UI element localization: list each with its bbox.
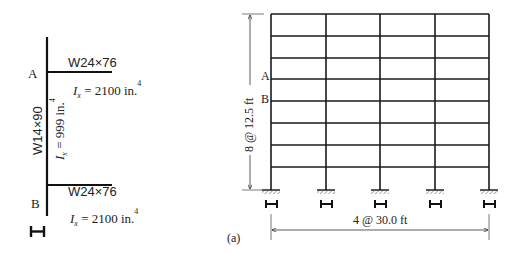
fixed-support-icon xyxy=(262,190,280,194)
beam-bottom-inertia: Ix = 2100 in.4 xyxy=(69,207,138,228)
beam-top-section-label: W24×76 xyxy=(68,55,117,70)
wide-flange-section-icon xyxy=(375,200,386,208)
fixed-support-icon xyxy=(426,190,444,194)
wide-flange-section-icon xyxy=(484,200,495,208)
subassembly-detail: A B W24×76 Ix = 2100 in.4 W24×76 Ix = 21… xyxy=(28,37,141,237)
column-inertia: Ix = 999 in.4 xyxy=(48,98,69,161)
wide-flange-section-icon xyxy=(266,200,277,208)
fixed-supports xyxy=(262,190,498,194)
joint-a-label: A xyxy=(28,66,38,81)
wide-flange-section-icon xyxy=(31,226,44,237)
fixed-support-icon xyxy=(317,190,335,194)
width-dimension-label: 4 @ 30.0 ft xyxy=(353,213,408,227)
height-dimension-label: 8 @ 12.5 ft xyxy=(242,97,256,152)
beam-top-inertia: Ix = 2100 in.4 xyxy=(72,79,141,100)
frame-columns xyxy=(271,14,489,190)
frame-joint-b-label: B xyxy=(261,92,269,106)
joint-b-label: B xyxy=(31,196,40,211)
fixed-support-icon xyxy=(480,190,498,194)
width-dimension: 4 @ 30.0 ft xyxy=(271,213,489,240)
part-label: (a) xyxy=(227,231,240,245)
beam-bottom-section-label: W24×76 xyxy=(68,184,117,199)
diagram-canvas: A B W24×76 Ix = 2100 in.4 W24×76 Ix = 21… xyxy=(0,0,517,254)
column-section-icons xyxy=(266,200,495,208)
moment-frame xyxy=(271,14,489,190)
column-section-label: W14×90 xyxy=(30,106,45,155)
fixed-support-icon xyxy=(371,190,389,194)
wide-flange-section-icon xyxy=(321,200,332,208)
wide-flange-section-icon xyxy=(430,200,441,208)
frame-joint-a-label: A xyxy=(261,69,270,83)
